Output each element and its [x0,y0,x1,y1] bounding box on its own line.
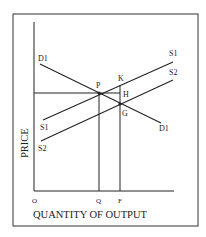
label-q: Q [96,197,101,205]
point-p-marker [97,91,100,94]
x-axis-title: QUANTITY OF OUTPUT [33,209,148,220]
label-s1-end: S1 [169,49,177,58]
label-origin: O [32,197,37,205]
label-d1-end: D1 [159,124,169,133]
label-point-g: G [122,109,128,118]
label-d1-start: D1 [38,54,48,63]
diagram-frame [13,14,198,226]
point-g-marker [118,102,121,105]
label-f: F [118,197,122,205]
supply-demand-diagram: D1 D1 S1 S1 S2 S2 P K H G O Q F QUANTITY… [0,0,206,237]
label-s2-start: S2 [38,144,46,153]
label-s1-start: S1 [40,123,48,132]
label-point-k: K [118,74,124,83]
y-axis-title: PRICE [19,128,30,158]
label-point-h: H [123,90,129,99]
label-s2-end: S2 [169,68,177,77]
label-point-p: P [96,81,101,90]
supply-curve-s2 [41,80,173,141]
supply-curve-s1 [43,62,173,120]
